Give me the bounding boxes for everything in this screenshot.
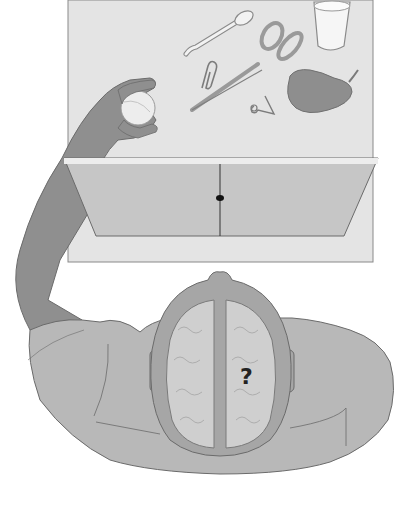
split-brain-illustration: ? [0, 0, 401, 517]
question-mark: ? [240, 364, 253, 389]
fixation-point [216, 195, 224, 201]
divider-screen [64, 158, 378, 236]
glass-icon [314, 1, 350, 50]
